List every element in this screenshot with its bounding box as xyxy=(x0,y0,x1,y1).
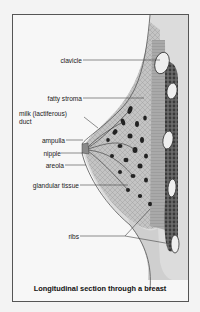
figure-caption: Longitudinal section through a breast xyxy=(0,284,200,293)
label-areola: areola xyxy=(46,162,64,169)
label-glandular-tissue: glandular tissue xyxy=(33,182,79,189)
nipple xyxy=(82,143,89,154)
label-ribs: ribs xyxy=(68,233,79,240)
label-ampulla: ampulla xyxy=(42,137,65,144)
label-milk-duct-line1: milk (lactiferous) xyxy=(19,110,67,117)
fatty-stroma-region xyxy=(84,22,160,229)
label-nipple: nipple xyxy=(43,150,61,157)
label-milk-duct-line2: duct xyxy=(19,118,31,125)
label-clavicle: clavicle xyxy=(60,57,82,64)
label-fatty-stroma: fatty stroma xyxy=(48,95,82,102)
breast-section-illustration xyxy=(0,0,200,312)
